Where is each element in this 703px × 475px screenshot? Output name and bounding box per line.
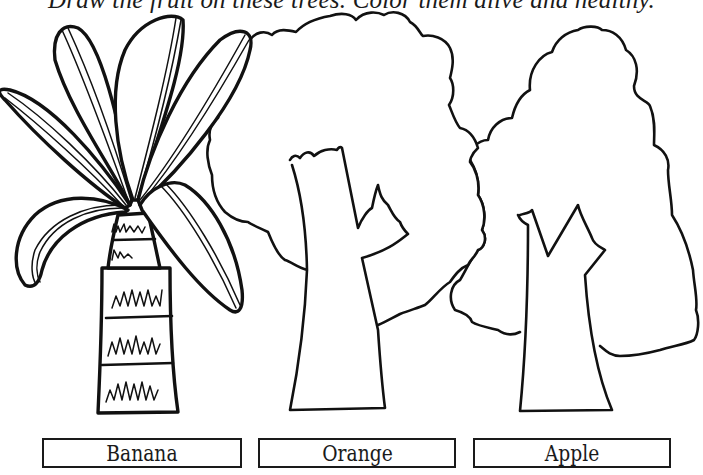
label-box-banana: Banana [42,438,242,468]
banana-tree-icon [0,16,251,413]
label-text-apple: Apple [545,441,599,466]
label-text-banana: Banana [106,441,177,466]
apple-tree-icon [451,27,698,411]
tree-illustrations [0,0,703,430]
orange-tree-icon [207,12,485,410]
label-text-orange: Orange [322,441,393,466]
label-box-orange: Orange [258,438,456,468]
label-box-apple: Apple [473,438,671,468]
